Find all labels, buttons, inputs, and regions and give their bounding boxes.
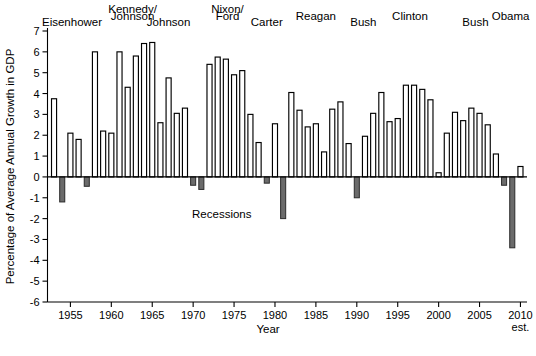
president-label-9: Clinton (392, 10, 428, 22)
y-tick-label-4: 4 (33, 88, 39, 100)
y-tick-label-1: 1 (33, 150, 39, 162)
bar-1992 (371, 113, 376, 177)
president-label-6: Carter (251, 16, 283, 28)
bar-1987 (330, 109, 335, 177)
bar-1973 (215, 57, 220, 177)
bar-1982 (289, 93, 294, 177)
president-label-3: Johnson (147, 16, 190, 28)
bar-1998 (420, 89, 425, 177)
bar-1970 (191, 177, 196, 185)
y-tick-label--3: -3 (30, 233, 40, 245)
bar-2008 (502, 177, 507, 185)
bar-1961 (117, 52, 122, 177)
bar-1994 (387, 122, 392, 177)
bar-1986 (322, 152, 327, 177)
y-tick-label-6: 6 (33, 46, 39, 58)
bar-2000 (436, 173, 441, 177)
x-axis-title: Year (256, 323, 279, 335)
president-label-11: Obama (492, 10, 530, 22)
bar-1995 (395, 119, 400, 177)
bar-1964 (142, 44, 147, 177)
bar-1959 (101, 131, 106, 177)
x-tick-label-2000: 2000 (426, 309, 450, 321)
annotations-group: Recessions (192, 208, 252, 220)
bar-1953 (52, 99, 57, 177)
bar-1999 (428, 100, 433, 177)
y-tick-label--6: -6 (30, 296, 40, 308)
chart-canvas: 76543210-1-2-3-4-5-619551960196519701975… (0, 0, 536, 356)
bar-2004 (469, 108, 474, 177)
bar-2007 (493, 154, 498, 177)
bar-1965 (150, 42, 155, 176)
bar-1968 (174, 113, 179, 177)
bar-1972 (207, 64, 212, 177)
bar-2001 (444, 133, 449, 177)
bar-1978 (256, 143, 261, 177)
president-label-7: Reagan (296, 10, 336, 22)
bar-1993 (379, 93, 384, 177)
bar-1990 (354, 177, 359, 198)
bar-2010 (518, 167, 523, 177)
bar-1976 (240, 71, 245, 177)
bar-1985 (313, 124, 318, 177)
y-tick-label-5: 5 (33, 67, 39, 79)
x-tick-label-1960: 1960 (99, 309, 123, 321)
x-tick-label-1970: 1970 (181, 309, 205, 321)
bar-1989 (346, 144, 351, 177)
x-tick-label-1995: 1995 (385, 309, 409, 321)
bar-1977 (248, 114, 253, 177)
bar-2002 (452, 112, 457, 177)
bar-1988 (338, 102, 343, 177)
bar-1996 (403, 85, 408, 177)
bar-1974 (223, 59, 228, 177)
bar-1981 (281, 177, 286, 219)
x-tick-label-1985: 1985 (304, 309, 328, 321)
y-axis-title: Percentage of Average Annual Growth in G… (4, 48, 16, 284)
president-label-8: Bush (350, 16, 376, 28)
x-tick-label-1955: 1955 (58, 309, 82, 321)
bar-1954 (60, 177, 65, 202)
y-tick-label--5: -5 (30, 275, 40, 287)
bar-1957 (84, 177, 89, 186)
x-tick-sublabel-2010: est. (512, 321, 530, 333)
bar-1980 (272, 124, 277, 177)
y-tick-label-2: 2 (33, 129, 39, 141)
bar-1963 (133, 56, 138, 177)
y-tick-label--4: -4 (30, 254, 40, 266)
bar-1967 (166, 78, 171, 177)
bar-1958 (92, 52, 97, 177)
bar-2009 (510, 177, 515, 248)
x-tick-label-2005: 2005 (467, 309, 491, 321)
x-tick-label-1965: 1965 (140, 309, 164, 321)
bar-1997 (412, 85, 417, 177)
bar-1969 (182, 108, 187, 177)
president-label-10: Bush (462, 16, 488, 28)
y-tick-label-7: 7 (33, 25, 39, 37)
annotation-0: Recessions (192, 208, 252, 220)
x-tick-label-1990: 1990 (345, 309, 369, 321)
x-tick-label-1975: 1975 (222, 309, 246, 321)
bar-1956 (76, 139, 81, 177)
gdp-growth-chart: 76543210-1-2-3-4-5-619551960196519701975… (0, 0, 536, 356)
bar-1984 (305, 127, 310, 177)
bar-1975 (232, 75, 237, 177)
president-label-0: Eisenhower (42, 16, 102, 28)
y-tick-label--2: -2 (30, 213, 40, 225)
bar-2006 (485, 125, 490, 177)
bar-2005 (477, 113, 482, 177)
bar-1991 (362, 136, 367, 177)
y-tick-label--1: -1 (30, 192, 40, 204)
y-tick-label-3: 3 (33, 108, 39, 120)
bar-1960 (109, 133, 114, 177)
president-label-5: Ford (216, 10, 240, 22)
x-tick-label-1980: 1980 (263, 309, 287, 321)
bar-1966 (158, 123, 163, 177)
bar-1955 (68, 133, 73, 177)
x-tick-label-2010: 2010 (508, 309, 532, 321)
bar-1962 (125, 87, 130, 177)
bar-2003 (461, 121, 466, 177)
bar-1979 (264, 177, 269, 183)
bar-1971 (199, 177, 204, 190)
y-tick-label-0: 0 (33, 171, 39, 183)
bar-1983 (297, 110, 302, 177)
